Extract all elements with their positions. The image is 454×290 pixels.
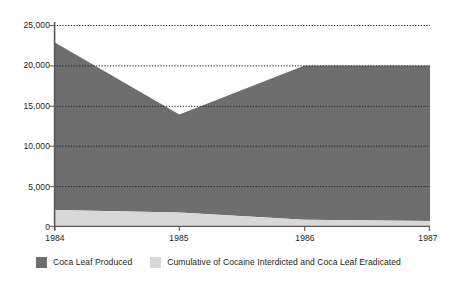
x-axis-ticks [54,226,431,232]
y-tick-label-20000: 20,000 [4,61,50,70]
legend-item-coca-leaf-produced: Coca Leaf Produced [36,257,132,268]
chart-legend: Coca Leaf Produced Cumulative of Cocaine… [36,257,401,268]
y-tick-label-25000: 25,000 [4,21,50,30]
y-axis-ticks [49,25,55,227]
y-tick-label-0: 0 [4,223,50,232]
plot-svg [54,25,430,227]
legend-swatch-icon-dark [36,257,47,268]
x-tick-label-1987: 1987 [418,233,437,243]
area-coca-leaf-produced [54,42,430,227]
legend-label-coca-leaf-produced: Coca Leaf Produced [53,257,132,268]
y-tick-label-10000: 10,000 [4,142,50,151]
area-chart-figure: 25,000 20,000 15,000 10,000 5,000 0 [0,0,454,290]
y-axis-labels: 25,000 20,000 15,000 10,000 5,000 0 [0,0,50,290]
legend-label-cumulative-interdicted-eradicated: Cumulative of Cocaine Interdicted and Co… [167,257,401,268]
x-tick-label-1984: 1984 [45,233,64,243]
legend-swatch-icon-light [150,257,161,268]
y-tick-label-5000: 5,000 [4,183,50,192]
y-tick-label-15000: 15,000 [4,102,50,111]
x-tick-label-1985: 1985 [169,233,188,243]
plot-area [54,25,430,227]
x-axis-labels: 1984 1985 1986 1987 [54,233,430,247]
x-tick-label-1986: 1986 [295,233,314,243]
legend-item-cumulative-interdicted-eradicated: Cumulative of Cocaine Interdicted and Co… [150,257,401,268]
